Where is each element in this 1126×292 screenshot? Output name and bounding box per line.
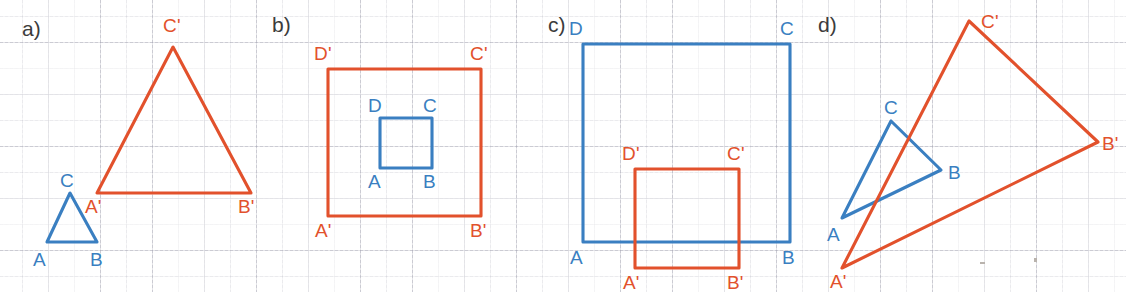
panel-tag-b: b) [272,14,291,35]
square-A-prime-B-prime-C-prime-D-prime [635,169,739,268]
vertex-label-C-prime: C' [727,144,745,163]
vertex-label-C: C [884,98,898,117]
vertex-label-B-prime: B' [727,273,744,292]
square-ABCD [583,44,790,242]
figure-canvas: ABCA'B'C'ABCDA'B'C'D'ABCDA'B'C'D'ABCA'B'… [0,0,1126,292]
vertex-label-A-prime: A' [623,273,640,292]
vertex-label-C: C [780,19,794,38]
vertex-label-A: A [570,248,583,267]
vertex-label-B-prime: B' [470,221,487,240]
square-ABCD [380,118,432,168]
vertex-label-A: A [827,225,840,244]
panel-tag-c: c) [548,14,566,35]
paper-speck [1034,258,1037,262]
vertex-label-D: D [569,19,583,38]
vertex-label-B: B [90,250,103,269]
panel-tag-a: a) [22,18,41,39]
vertex-label-C: C [423,96,437,115]
vertex-label-A-prime: A' [315,221,332,240]
vertex-label-C-prime: C' [163,16,181,35]
shapes-layer [0,0,1126,292]
vertex-label-A-prime: A' [85,197,102,216]
vertex-label-C-prime: C' [470,44,488,63]
paper-speck [980,262,985,264]
vertex-label-D-prime: D' [622,144,640,163]
vertex-label-D-prime: D' [314,44,332,63]
vertex-label-B-prime: B' [238,197,255,216]
square-A-prime-B-prime-C-prime-D-prime [328,69,481,216]
vertex-label-C: C [60,171,74,190]
vertex-label-B: B [782,248,795,267]
vertex-label-A: A [33,250,46,269]
vertex-label-C-prime: C' [981,12,999,31]
vertex-label-B: B [423,172,436,191]
vertex-label-A: A [368,172,381,191]
vertex-label-A-prime: A' [830,272,847,291]
vertex-label-B: B [948,163,961,182]
vertex-label-B-prime: B' [1102,134,1119,153]
panel-tag-d: d) [818,14,837,35]
triangle-A-prime-B-prime-C-prime [97,47,251,193]
vertex-label-D: D [368,96,382,115]
